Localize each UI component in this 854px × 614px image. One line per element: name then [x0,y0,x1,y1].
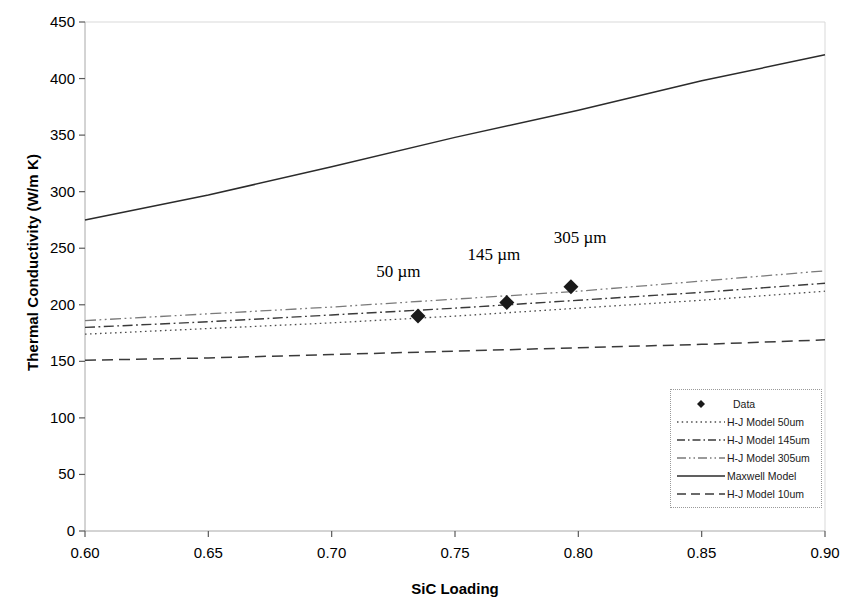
legend-key-dashdotdot-line [675,451,727,465]
x-tick-label: 0.60 [50,545,120,560]
x-axis-title: SiC Loading [85,580,825,597]
legend-key-dashed-line [675,487,727,501]
legend-label-maxwell: Maxwell Model [727,470,796,482]
y-tick-label: 400 [15,71,75,86]
y-tick-label: 450 [15,14,75,29]
legend-item-data: Data [675,395,817,413]
legend-key-dotted-line [675,415,727,429]
y-tick-label: 350 [15,127,75,142]
y-tick-label: 300 [15,184,75,199]
legend-label-hj-145um: H-J Model 145um [727,434,810,446]
legend-label-hj-305um: H-J Model 305um [727,452,810,464]
legend-item-hj-10um: H-J Model 10um [675,485,817,503]
legend-label-data: Data [727,398,755,410]
series-line-h-j-model-50um [85,291,825,334]
legend-key-data-marker [675,397,727,411]
x-tick-label: 0.90 [790,545,854,560]
series-line-h-j-model-10um [85,340,825,360]
y-tick-label: 200 [15,297,75,312]
legend-key-solid-line [675,469,727,483]
series-line-maxwell-model [85,55,825,220]
legend-item-maxwell: Maxwell Model [675,467,817,485]
annotation-label: 145 µm [467,245,520,265]
legend-label-hj-10um: H-J Model 10um [727,488,804,500]
legend-item-hj-50um: H-J Model 50um [675,413,817,431]
plot-canvas [0,0,854,614]
x-tick-label: 0.80 [543,545,613,560]
y-tick-label: 0 [15,523,75,538]
annotation-label: 305 µm [554,228,607,248]
y-tick-label: 250 [15,240,75,255]
x-tick-label: 0.65 [173,545,243,560]
legend-key-dashdot-line [675,433,727,447]
legend-item-hj-305um: H-J Model 305um [675,449,817,467]
legend-item-hj-145um: H-J Model 145um [675,431,817,449]
series-line-h-j-model-145um [85,283,825,327]
x-tick-label: 0.85 [667,545,737,560]
y-tick-label: 100 [15,410,75,425]
y-tick-label: 50 [15,466,75,481]
chart-figure: Thermal Conductivity (W/m K) SiC Loading… [0,0,854,614]
annotation-label: 50 µm [376,262,420,282]
legend-label-hj-50um: H-J Model 50um [727,416,804,428]
legend: Data H-J Model 50um H-J Model 145um H-J … [670,389,822,508]
data-point-marker [499,295,514,310]
x-tick-label: 0.75 [420,545,490,560]
series-line-h-j-model-305um [85,271,825,321]
y-tick-label: 150 [15,353,75,368]
x-tick-label: 0.70 [297,545,367,560]
